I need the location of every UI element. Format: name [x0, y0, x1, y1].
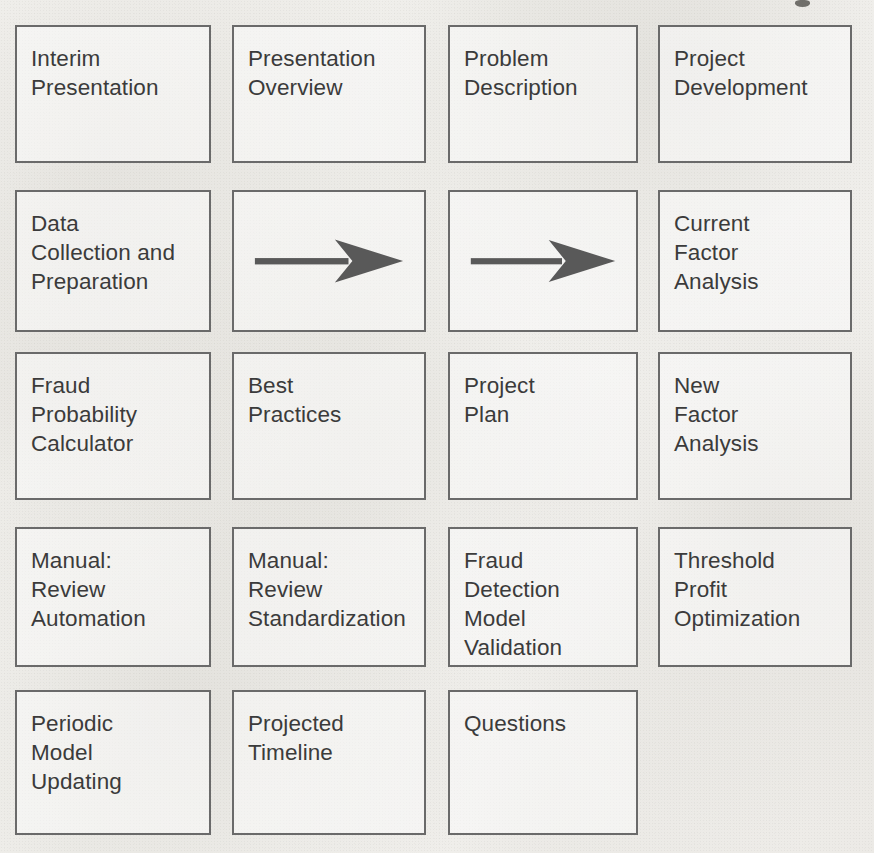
diagram-box: Project Plan: [448, 352, 638, 500]
diagram-box-label: Projected Timeline: [248, 711, 344, 765]
clipped-text-mark: [795, 0, 810, 7]
diagram-box-label: Project Development: [674, 46, 808, 100]
diagram-box: Data Collection and Preparation: [15, 190, 211, 332]
diagram-box-label: Fraud Detection Model Validation: [464, 548, 562, 660]
diagram-box: Problem Description: [448, 25, 638, 163]
diagram-box-label: Interim Presentation: [31, 46, 159, 100]
diagram-box-label: Best Practices: [248, 373, 341, 427]
arrow-box: [232, 190, 426, 332]
diagram-box: Best Practices: [232, 352, 426, 500]
diagram-box-label: Manual: Review Automation: [31, 548, 146, 631]
diagram-box: Manual: Review Automation: [15, 527, 211, 667]
diagram-box: Questions: [448, 690, 638, 835]
diagram-box: Projected Timeline: [232, 690, 426, 835]
diagram-box-label: Periodic Model Updating: [31, 711, 122, 794]
diagram-box-label: Presentation Overview: [248, 46, 376, 100]
right-arrow-icon: [467, 235, 619, 287]
diagram-box-label: Threshold Profit Optimization: [674, 548, 800, 631]
diagram-box-label: Fraud Probability Calculator: [31, 373, 137, 456]
diagram-box-label: New Factor Analysis: [674, 373, 759, 456]
diagram-box-label: Project Plan: [464, 373, 535, 427]
diagram-box: Current Factor Analysis: [658, 190, 852, 332]
diagram-box: Fraud Detection Model Validation: [448, 527, 638, 667]
right-arrow-icon: [251, 235, 407, 287]
diagram-box: Manual: Review Standardization: [232, 527, 426, 667]
diagram-box: Project Development: [658, 25, 852, 163]
diagram-box-label: Current Factor Analysis: [674, 211, 759, 294]
diagram-box-label: Manual: Review Standardization: [248, 548, 406, 631]
scanned-page: Interim PresentationPresentation Overvie…: [0, 0, 874, 853]
diagram-box-label: Data Collection and Preparation: [31, 211, 175, 294]
diagram-box: Interim Presentation: [15, 25, 211, 163]
diagram-box-label: Questions: [464, 711, 566, 736]
diagram-box: Presentation Overview: [232, 25, 426, 163]
diagram-box: Fraud Probability Calculator: [15, 352, 211, 500]
diagram-box-label: Problem Description: [464, 46, 578, 100]
arrow-box: [448, 190, 638, 332]
diagram-box: New Factor Analysis: [658, 352, 852, 500]
diagram-box: Periodic Model Updating: [15, 690, 211, 835]
diagram-box: Threshold Profit Optimization: [658, 527, 852, 667]
